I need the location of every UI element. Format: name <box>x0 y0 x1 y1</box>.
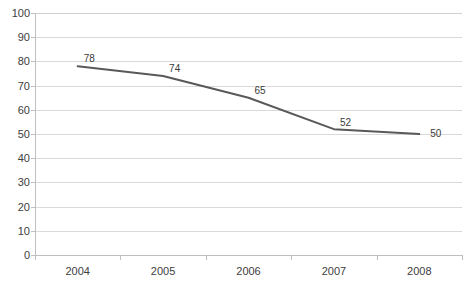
y-axis-tick-label: 30 <box>2 177 30 188</box>
y-axis-tick-label: 70 <box>2 80 30 91</box>
x-axis-tick-label: 2004 <box>65 266 89 277</box>
y-axis-tick-label: 20 <box>2 201 30 212</box>
y-axis-tick-label: 40 <box>2 153 30 164</box>
x-axis-tick <box>291 255 292 260</box>
x-axis-tick <box>206 255 207 260</box>
x-axis-tick <box>462 255 463 260</box>
data-point-label: 74 <box>169 64 180 74</box>
x-axis-line <box>35 255 462 256</box>
y-axis-tick-label: 60 <box>2 104 30 115</box>
x-axis-tick <box>120 255 121 260</box>
x-axis-tick-label: 2007 <box>322 266 346 277</box>
y-axis-tick-label: 50 <box>2 129 30 140</box>
x-axis-tick-label: 2005 <box>151 266 175 277</box>
x-axis-tick-label: 2008 <box>407 266 431 277</box>
y-axis-tick-label: 100 <box>2 8 30 19</box>
y-axis-tick-label: 10 <box>2 225 30 236</box>
data-point-label: 50 <box>430 129 441 139</box>
y-axis-tick-label: 90 <box>2 32 30 43</box>
data-point-label: 78 <box>84 54 95 64</box>
y-axis-tick-labels: 1009080706050403020100 <box>0 13 30 255</box>
x-axis-tick-label: 2006 <box>236 266 260 277</box>
data-point-label: 52 <box>340 118 351 128</box>
plot-area: 7874655250 <box>35 13 462 255</box>
data-point-label: 65 <box>255 86 266 96</box>
series-line <box>35 13 462 255</box>
y-axis-tick-label: 0 <box>2 250 30 261</box>
y-axis-tick-label: 80 <box>2 56 30 67</box>
line-chart: 1009080706050403020100 7874655250 200420… <box>0 0 470 290</box>
x-axis-tick <box>35 255 36 260</box>
x-axis-tick <box>377 255 378 260</box>
